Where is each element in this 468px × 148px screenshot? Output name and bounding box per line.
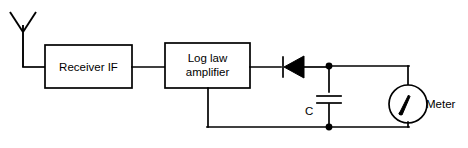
meter-dial-circle: [389, 85, 427, 123]
antenna-left-arm: [10, 12, 23, 32]
log-law-amplifier-label-line2: amplifier: [186, 66, 230, 78]
log-law-amplifier-label-line1: Log law: [188, 52, 228, 64]
block-log-law-amplifier[interactable]: Log law amplifier: [165, 43, 250, 88]
detector-diode-symbol: [283, 56, 304, 78]
meter-label: Meter: [426, 98, 456, 110]
junction-dot-top: [326, 63, 333, 70]
antenna-symbol: [10, 12, 36, 67]
meter-symbol[interactable]: [389, 85, 427, 123]
meter-pivot: [399, 112, 402, 115]
block-receiver-if[interactable]: Receiver IF: [45, 45, 132, 88]
capacitor-label: C: [305, 105, 313, 117]
receiver-if-label: Receiver IF: [59, 61, 118, 73]
antenna-right-arm: [23, 12, 36, 32]
circuit-schematic-canvas: Receiver IF Log law amplifier: [0, 0, 468, 148]
diode-anode-triangle: [284, 56, 304, 78]
capacitor-symbol: [317, 96, 341, 103]
circuit-diagram: Receiver IF Log law amplifier: [0, 0, 468, 148]
junction-dot-bottom: [326, 124, 333, 131]
